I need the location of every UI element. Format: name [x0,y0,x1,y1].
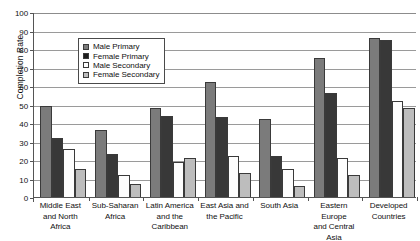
bar[interactable] [107,154,119,197]
legend-swatch-female-primary [83,53,89,59]
legend-label-male-primary: Male Primary [93,42,140,51]
legend-label-male-secondary: Male Secondary [93,61,150,70]
x-axis-category-line: Developed [361,201,416,212]
bar-group [205,13,251,197]
bar[interactable] [40,106,52,197]
x-axis-category-line: Caribbean [142,222,197,233]
bar[interactable] [161,116,173,197]
bar-group [314,13,360,197]
x-axis-category-line: Africa [33,222,88,233]
bar[interactable] [259,119,271,197]
y-axis-tick [30,124,34,125]
bar[interactable] [130,184,142,197]
bar-group [369,13,415,197]
bar[interactable] [239,173,251,197]
legend-item[interactable]: Male Primary [83,42,159,51]
legend-label-female-secondary: Female Secondary [93,70,159,79]
x-axis-category-line: and North [33,212,88,223]
y-axis-tick-label: 100 [15,9,28,18]
legend-item[interactable]: Female Secondary [83,70,159,79]
bar[interactable] [150,108,162,197]
y-axis-tick [30,13,34,14]
legend-swatch-male-primary [83,44,89,50]
x-axis-category-line: the Pacific [197,212,252,223]
bar[interactable] [63,149,75,197]
bar[interactable] [184,158,196,197]
y-axis-tick-label: 40 [19,120,28,129]
bar[interactable] [380,40,392,197]
x-axis-category-label: DevelopedCountries [361,201,416,222]
x-axis-category-line: South Asia [252,201,307,212]
y-axis-tick-label: 20 [19,157,28,166]
y-axis-tick [30,161,34,162]
bar[interactable] [205,82,217,197]
x-axis-category-line: East Asia and [197,201,252,212]
bar[interactable] [403,108,415,197]
x-axis-category-line: Latin America [142,201,197,212]
legend-item[interactable]: Male Secondary [83,61,159,70]
bar[interactable] [282,169,294,197]
y-axis-tick [30,106,34,107]
bar[interactable] [118,175,130,197]
bar[interactable] [348,175,360,197]
bar[interactable] [173,162,185,197]
x-axis-category-label: Sub-SaharanAfrica [88,201,143,222]
y-axis-tick [30,69,34,70]
y-axis-tick-label: 70 [19,64,28,73]
y-axis-tick-label: 50 [19,101,28,110]
y-axis-tick-label: 90 [19,27,28,36]
legend-swatch-male-secondary [83,62,89,68]
bar[interactable] [314,58,326,197]
x-axis-category-label: Eastern Europeand CentralAsia [307,201,362,241]
legend-item[interactable]: Female Primary [83,51,159,60]
x-axis-category-label: Latin Americaand theCaribbean [142,201,197,233]
x-axis-category-line: Asia [307,233,362,241]
x-axis-category-label: East Asia andthe Pacific [197,201,252,222]
x-axis-tick [417,197,418,201]
bar-group [259,13,305,197]
bar[interactable] [271,156,283,197]
y-axis-tick [30,32,34,33]
bar-chart: Completion Rate 0102030405060708090100 M… [0,0,420,241]
y-axis-tick [30,143,34,144]
x-axis-category-line: Africa [88,212,143,223]
legend-swatch-female-secondary [83,72,89,78]
bar[interactable] [325,93,337,197]
x-axis-category-line: Eastern Europe [307,201,362,222]
y-axis-tick [30,50,34,51]
bar[interactable] [392,101,404,197]
x-axis-category-line: Middle East [33,201,88,212]
bar[interactable] [75,169,87,197]
y-axis-tick [30,180,34,181]
bar[interactable] [95,130,107,197]
bar[interactable] [52,138,64,197]
top-margin-strip [0,0,420,5]
y-axis-tick-label: 10 [19,175,28,184]
x-axis-category-label: South Asia [252,201,307,212]
x-axis-category-line: Sub-Saharan [88,201,143,212]
bar[interactable] [294,186,306,197]
y-axis-tick-label: 30 [19,138,28,147]
x-axis-category-line: and Central [307,222,362,233]
chart-legend: Male Primary Female Primary Male Seconda… [78,38,165,84]
y-axis-tick [30,87,34,88]
x-axis-labels: Middle Eastand NorthAfricaSub-SaharanAfr… [33,201,416,241]
legend-label-female-primary: Female Primary [93,52,149,61]
x-axis-category-line: and the [142,212,197,223]
bar[interactable] [369,38,381,197]
y-axis-tick-label: 0 [24,194,28,203]
y-axis-tick-label: 60 [19,83,28,92]
bar[interactable] [216,117,228,197]
bar[interactable] [228,156,240,197]
y-axis-tick-label: 80 [19,46,28,55]
x-axis-category-label: Middle Eastand NorthAfrica [33,201,88,233]
x-axis-category-line: Countries [361,212,416,223]
bar[interactable] [337,158,349,197]
